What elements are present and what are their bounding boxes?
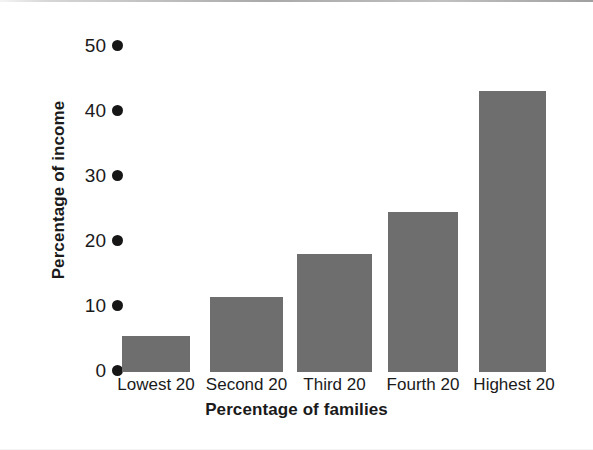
bar-lowest-20[interactable] — [122, 336, 190, 372]
plot-area: Lowest 20 Second 20 Third 20 Fourth 20 H… — [0, 0, 593, 450]
x-axis-tick-label-highest-20: Highest 20 — [470, 375, 558, 395]
x-axis-title: Percentage of families — [0, 400, 593, 420]
x-axis-tick-label-fourth-20: Fourth 20 — [381, 375, 465, 395]
x-axis-tick-label-third-20: Third 20 — [297, 375, 372, 395]
bar-fourth-20[interactable] — [388, 212, 458, 372]
bar-chart-figure: Percentage of income 50 40 30 20 10 0 Lo… — [0, 0, 593, 450]
x-axis-tick-label-lowest-20: Lowest 20 — [116, 375, 196, 395]
bar-highest-20[interactable] — [479, 91, 546, 372]
bar-third-20[interactable] — [297, 254, 372, 372]
bar-second-20[interactable] — [210, 297, 283, 372]
x-axis-tick-label-second-20: Second 20 — [204, 375, 289, 395]
